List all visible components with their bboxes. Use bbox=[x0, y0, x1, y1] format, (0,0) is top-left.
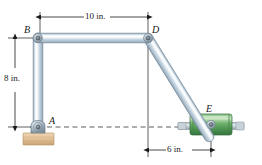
support-block-body bbox=[23, 133, 54, 145]
pin-A-hole bbox=[36, 125, 40, 129]
rod-left-cap bbox=[178, 123, 186, 130]
bar-BD-highlight bbox=[37, 35, 149, 37]
bar-BD bbox=[33, 33, 153, 43]
pin-B-hole bbox=[36, 36, 40, 40]
pin-joint-B bbox=[34, 34, 43, 43]
dimension-label-6in: 6 in. bbox=[166, 145, 184, 154]
pin-E-hole bbox=[209, 122, 213, 126]
label-point-a: A bbox=[49, 116, 55, 126]
label-point-e: E bbox=[206, 104, 212, 114]
label-point-d: D bbox=[152, 25, 159, 35]
bar-BD-body bbox=[33, 33, 153, 43]
figure-canvas: B A D E 10 in. 8 in. 6 in. bbox=[0, 0, 262, 165]
bar-AB bbox=[33, 33, 43, 132]
rod-right-cap bbox=[236, 122, 244, 130]
pin-joint-E bbox=[207, 120, 215, 128]
dimension-label-10in: 10 in. bbox=[84, 12, 107, 21]
bar-AB-highlight bbox=[35, 36, 37, 129]
pin-joint-A bbox=[34, 123, 43, 132]
dimension-label-8in: 8 in. bbox=[3, 74, 21, 83]
linkage-diagram bbox=[0, 0, 262, 165]
label-point-b: B bbox=[24, 25, 30, 35]
bar-AB-body bbox=[33, 33, 43, 132]
pin-D-hole bbox=[146, 36, 150, 40]
